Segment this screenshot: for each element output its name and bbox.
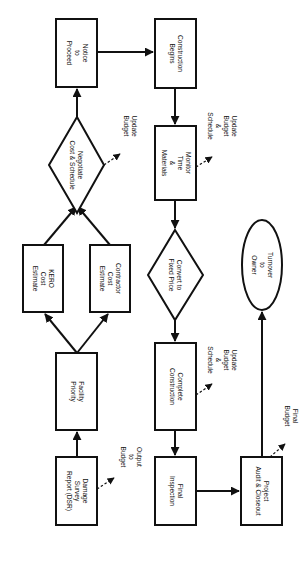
edge-facility-to-contractor: [77, 314, 108, 353]
dashed-negotiate-to-update-budget: [104, 154, 120, 165]
node-project-audit-closeout: Project Audit & Closeout: [241, 457, 282, 525]
note-label: Update: [230, 349, 238, 371]
edge-facility-to-kero: [45, 314, 77, 353]
note-label: Budget: [119, 447, 127, 468]
note-label: &: [215, 358, 222, 363]
note-label: Budget: [222, 116, 230, 137]
node-negotiate-diamond: Negotiate Cost & Schedule: [49, 117, 104, 213]
node-facility-priority: Facility Priority: [56, 353, 97, 430]
node-monitor-time-materials: Monitor Time & Materials: [155, 126, 196, 200]
node-label: Audit & Closeout: [255, 466, 262, 515]
node-label: Survey: [73, 481, 81, 502]
node-label: to: [259, 262, 266, 268]
note-label: Final: [292, 409, 299, 424]
node-convert-fixed-price-diamond: Convert to Fixed Price: [148, 230, 203, 320]
node-label: Construction: [177, 35, 184, 72]
node-damage-survey-report: Damage Survey Report (DSR): [56, 457, 97, 525]
node-contractor-cost-estimate: Contractor Cost Estimate: [90, 245, 130, 312]
node-label: Begins: [168, 43, 176, 64]
node-label: Monitor: [185, 152, 192, 175]
node-turnover-to-owner: Turnover to Owner: [242, 220, 282, 310]
node-label: Fixed Price: [168, 259, 175, 292]
node-complete-construction: Complete Construction: [155, 343, 196, 430]
note-label: to: [128, 454, 135, 460]
note-label: Budget: [222, 350, 230, 371]
note-output-to-budget: Output to Budget: [119, 447, 143, 468]
edge-kero-to-negotiate: [44, 207, 76, 245]
node-label: Owner: [251, 255, 258, 275]
note-label: Budget: [283, 406, 291, 427]
note-update-budget-schedule-monitor: Update Budget & Schedule: [207, 112, 238, 140]
note-label: &: [215, 124, 222, 129]
node-label: &: [169, 161, 176, 166]
node-label: Cost & Schedule: [69, 140, 76, 189]
node-label: Construction: [169, 368, 176, 405]
node-label: Proceed: [66, 41, 73, 66]
node-label: Report (DSR): [65, 471, 73, 511]
node-label: Facility: [77, 381, 85, 402]
note-update-budget: Update Budget: [122, 115, 138, 137]
note-label: Update: [130, 115, 138, 137]
note-label: Schedule: [207, 346, 214, 374]
dashed-complete-to-update: [196, 384, 212, 395]
note-final-budget: Final Budget: [283, 406, 299, 427]
node-label: Convert to: [176, 260, 183, 291]
note-label: Budget: [122, 116, 130, 137]
node-label: Turnover: [267, 252, 274, 279]
note-label: Schedule: [207, 112, 214, 140]
node-label: Estimate: [32, 266, 39, 292]
node-label: Contractor: [115, 263, 122, 295]
note-label: Output: [135, 447, 143, 467]
node-label: Notice: [82, 44, 89, 63]
node-label: Time: [177, 156, 184, 171]
node-label: Inspection: [168, 476, 176, 506]
node-label: KERO: [48, 269, 55, 288]
node-label: Cost: [107, 272, 114, 286]
node-final-inspection: Final Inspection: [155, 457, 196, 525]
node-label: Damage: [81, 479, 89, 504]
node-label: Complete: [176, 372, 184, 401]
node-label: Cost: [40, 272, 47, 286]
node-construction-begins: Construction Begins: [155, 19, 196, 88]
node-label: Negotiate: [76, 151, 84, 180]
node-kero-cost-estimate: KERO Cost Estimate: [23, 245, 63, 312]
node-notice-to-proceed: Notice to Proceed: [56, 19, 97, 87]
dashed-dsr-to-output-budget: [97, 478, 114, 489]
dashed-audit-to-final-budget: [270, 444, 285, 457]
node-label: Estimate: [99, 266, 106, 292]
node-label: Project: [262, 481, 270, 502]
node-label: to: [74, 50, 81, 56]
dashed-monitor-to-update: [196, 157, 212, 167]
note-label: Update: [230, 115, 238, 137]
edge-contractor-to-negotiate: [78, 207, 110, 245]
node-label: Materials: [161, 150, 168, 177]
node-label: Final: [177, 484, 184, 499]
note-update-budget-schedule-complete: Update Budget & Schedule: [207, 346, 238, 374]
flowchart: Notice to Proceed Negotiate Cost & Sched…: [0, 0, 306, 572]
node-label: Priority: [69, 381, 77, 402]
dashed-edges: [97, 154, 285, 489]
